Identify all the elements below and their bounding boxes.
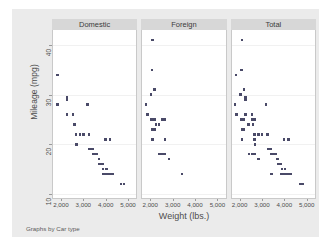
data-point — [247, 123, 249, 125]
gridline — [53, 144, 136, 145]
y-tick-label: 20 — [32, 140, 48, 148]
y-tick-label: 30 — [32, 91, 48, 99]
data-point — [240, 69, 242, 71]
data-point — [265, 103, 267, 105]
data-point — [66, 113, 68, 115]
gridline — [142, 45, 225, 46]
x-tick-label: 3,000 — [76, 201, 91, 208]
x-axis-title: Weight (lbs.) — [52, 211, 316, 221]
data-point — [91, 148, 93, 150]
data-point — [181, 173, 183, 175]
data-point — [164, 153, 166, 155]
data-point — [105, 168, 107, 170]
data-point — [79, 133, 81, 135]
data-point — [253, 153, 255, 155]
data-point — [73, 123, 75, 125]
data-point — [239, 93, 241, 95]
data-point — [270, 148, 272, 150]
data-point — [111, 173, 113, 175]
data-point — [261, 133, 263, 135]
x-tick-label: 4,000 — [187, 201, 202, 208]
x-axis-ticks-foreign: 2,0003,0004,0005,000 — [141, 199, 226, 211]
data-point — [234, 103, 236, 105]
data-point — [253, 138, 255, 140]
data-point — [274, 153, 276, 155]
gridline — [53, 45, 136, 46]
data-point — [96, 153, 98, 155]
data-point — [88, 133, 90, 135]
y-tick-text: 20 — [45, 144, 52, 160]
data-point — [56, 103, 58, 105]
x-axis-ticks: 2,0003,0004,0005,000 2,0003,0004,0005,00… — [52, 199, 316, 211]
data-point — [146, 113, 148, 115]
data-point — [281, 168, 283, 170]
data-point — [164, 118, 166, 120]
data-point — [253, 133, 255, 135]
data-point — [72, 113, 74, 115]
gridline — [142, 144, 225, 145]
data-point — [243, 88, 245, 90]
panel-title-domestic: Domestic — [52, 19, 137, 30]
data-point — [168, 158, 170, 160]
data-point — [235, 74, 237, 76]
figure-canvas: Mileage (mpg) 10203040 Domestic Foreign … — [12, 9, 319, 237]
data-point — [150, 93, 152, 95]
data-point — [244, 113, 246, 115]
gridline — [232, 194, 315, 195]
panel-title-foreign: Foreign — [141, 19, 226, 30]
data-point — [86, 103, 88, 105]
x-tick-label: 4,000 — [98, 201, 113, 208]
data-point — [251, 113, 253, 115]
data-point — [56, 74, 58, 76]
x-tick-label: 2,000 — [53, 201, 68, 208]
data-point — [66, 96, 68, 98]
data-point — [66, 98, 68, 100]
data-point — [287, 138, 289, 140]
data-point — [280, 163, 282, 165]
data-point — [102, 168, 104, 170]
data-point — [98, 158, 100, 160]
y-tick-text: 30 — [45, 94, 52, 110]
data-point — [257, 133, 259, 135]
gridline — [53, 194, 136, 195]
data-point — [270, 173, 272, 175]
data-point — [243, 118, 245, 120]
data-point — [301, 183, 303, 185]
data-point — [145, 103, 147, 105]
gridline — [232, 45, 315, 46]
x-tick-label: 2,000 — [232, 201, 247, 208]
data-point — [151, 69, 153, 71]
data-point — [153, 118, 155, 120]
x-tick-label: 5,000 — [299, 201, 314, 208]
data-point — [241, 39, 243, 41]
y-tick-text: 10 — [45, 194, 52, 210]
data-point — [104, 138, 106, 140]
x-axis-ticks-total: 2,0003,0004,0005,000 — [231, 199, 316, 211]
data-point — [290, 173, 292, 175]
data-point — [244, 98, 246, 100]
data-point — [75, 143, 77, 145]
gridline — [232, 144, 315, 145]
data-point — [164, 138, 166, 140]
data-point — [153, 128, 155, 130]
x-tick-label: 2,000 — [143, 201, 158, 208]
data-point — [254, 143, 256, 145]
data-point — [257, 158, 259, 160]
x-tick-label: 5,000 — [120, 201, 135, 208]
data-point — [101, 163, 103, 165]
x-tick-label: 5,000 — [210, 201, 225, 208]
data-point — [151, 138, 153, 140]
x-tick-label: 4,000 — [277, 201, 292, 208]
gridline — [142, 95, 225, 96]
data-point — [241, 138, 243, 140]
plot-area-total — [231, 30, 316, 199]
y-tick-label: 40 — [32, 41, 48, 49]
data-point — [283, 138, 285, 140]
data-point — [244, 96, 246, 98]
data-point — [266, 133, 268, 135]
data-point — [153, 88, 155, 90]
data-point — [82, 133, 84, 135]
panel-title-total: Total — [231, 19, 316, 30]
data-point — [158, 123, 160, 125]
gridline — [142, 194, 225, 195]
